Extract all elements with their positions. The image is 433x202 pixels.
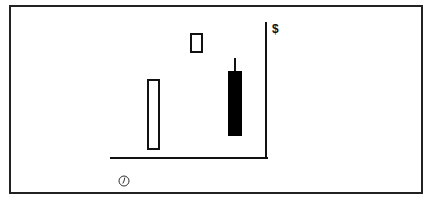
candle-filled-upper-wick	[234, 58, 236, 72]
y-axis-label: $	[272, 22, 279, 36]
x-axis-line	[110, 157, 268, 159]
y-axis-line	[265, 22, 267, 159]
candle-hollow-small	[190, 33, 203, 53]
candle-filled	[228, 71, 242, 136]
diagram-frame	[9, 5, 423, 194]
candle-hollow-tall	[147, 79, 160, 150]
clock-icon	[118, 175, 130, 187]
